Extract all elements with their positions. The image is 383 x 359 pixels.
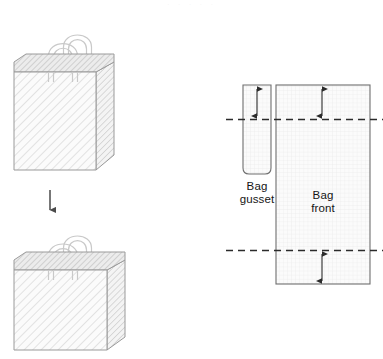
- short-bag-rim: [14, 252, 125, 270]
- gusset-label-line2: gusset: [240, 193, 274, 205]
- short-bag-front-face: [14, 270, 107, 350]
- front-panel: [276, 85, 370, 284]
- front-label-line2: front: [311, 202, 335, 214]
- short-bag-illustration: [14, 236, 125, 350]
- short-bag-side-panel: [107, 260, 125, 350]
- figure-canvas: · · · · ·: [0, 0, 383, 359]
- illustration-svg: [0, 0, 383, 359]
- tall-bag-rim: [14, 54, 114, 72]
- front-label: Bag front: [294, 189, 352, 214]
- front-label-line1: Bag: [313, 189, 334, 201]
- tall-bag-front-face: [14, 72, 96, 170]
- tall-bag-illustration: [14, 35, 114, 170]
- gusset-label-line1: Bag: [247, 180, 268, 192]
- tall-bag-side-panel: [96, 62, 114, 170]
- gusset-label: Bag gusset: [228, 180, 286, 205]
